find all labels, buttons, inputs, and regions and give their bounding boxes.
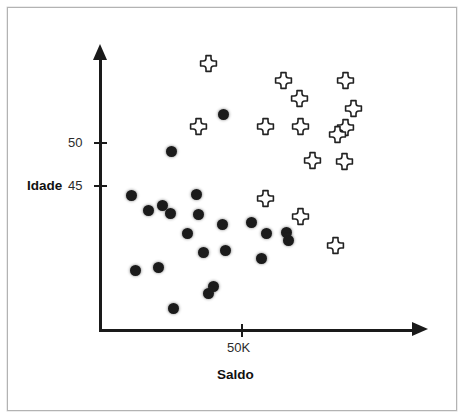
data-point-cross [327, 237, 344, 254]
x-axis-tick-50k [241, 324, 243, 337]
data-point-cross [190, 118, 207, 135]
x-axis-line [99, 329, 419, 332]
data-point-circle [126, 190, 137, 201]
data-point-circle [217, 219, 228, 230]
x-axis-tick-label-50k: 50K [227, 340, 250, 355]
data-point-cross [336, 153, 353, 170]
data-point-circle [182, 228, 193, 239]
data-point-cross [345, 100, 362, 117]
data-point-circle [191, 189, 202, 200]
data-point-circle [261, 228, 272, 239]
y-axis-title: Idade [27, 178, 62, 193]
data-point-circle [198, 247, 209, 258]
y-axis-tick-label-50: 50 [68, 135, 82, 150]
data-point-circle [218, 109, 229, 120]
data-point-circle [256, 253, 267, 264]
data-point-cross [292, 208, 309, 225]
data-point-circle [143, 205, 154, 216]
data-point-cross [257, 118, 274, 135]
data-point-cross [292, 118, 309, 135]
data-point-cross [337, 72, 354, 89]
data-point-cross [257, 190, 274, 207]
data-point-circle [165, 208, 176, 219]
data-point-circle [130, 265, 141, 276]
x-axis-title: Saldo [217, 367, 254, 382]
data-point-circle [203, 288, 214, 299]
y-axis-arrowhead-icon [93, 44, 107, 60]
data-point-cross [200, 55, 217, 72]
y-axis-tick-50 [94, 142, 107, 144]
y-axis-tick-45 [94, 185, 107, 187]
data-point-circle [153, 262, 164, 273]
data-point-cross [291, 90, 308, 107]
data-point-circle [220, 245, 231, 256]
data-point-circle [283, 235, 294, 246]
y-axis-line [99, 58, 102, 331]
data-point-cross [329, 126, 346, 143]
plot-area: 50 45 Idade 50K Saldo [0, 0, 465, 419]
x-axis-arrowhead-icon [412, 322, 428, 336]
y-axis-tick-label-45: 45 [68, 178, 82, 193]
scatter-plot-figure: 50 45 Idade 50K Saldo [0, 0, 465, 419]
data-point-circle [246, 217, 257, 228]
data-point-cross [304, 152, 321, 169]
data-point-circle [193, 209, 204, 220]
data-point-circle [168, 303, 179, 314]
data-point-circle [166, 146, 177, 157]
data-point-cross [275, 72, 292, 89]
